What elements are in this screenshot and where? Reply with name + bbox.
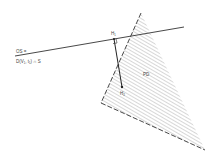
label-os: OS = xyxy=(16,49,27,54)
label-h1: H₁ xyxy=(111,31,116,36)
diagram-canvas: OS = D(V₁, t₁) ∩ S H₁ H₂ PD xyxy=(0,0,218,158)
label-h2: H₂ xyxy=(120,91,125,96)
region-pd xyxy=(101,13,205,150)
point-h2 xyxy=(121,86,123,88)
label-pd: PD xyxy=(143,72,150,77)
point-h1 xyxy=(113,38,115,40)
label-os-definition: D(V₁, t₁) ∩ S xyxy=(16,59,41,64)
